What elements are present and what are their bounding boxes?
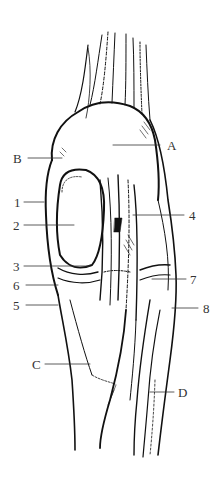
label-c: C xyxy=(32,358,41,371)
label-d: D xyxy=(178,386,187,399)
knee-drawing xyxy=(0,0,219,485)
label-a: A xyxy=(167,139,176,152)
label-6: 6 xyxy=(13,279,20,292)
label-5: 5 xyxy=(13,299,20,312)
label-2: 2 xyxy=(13,219,20,232)
knee-anatomy-figure: A B 1 2 3 6 5 C 4 7 8 D xyxy=(0,0,219,485)
label-7: 7 xyxy=(190,273,197,286)
label-8: 8 xyxy=(203,302,210,315)
label-1: 1 xyxy=(14,196,21,209)
label-3: 3 xyxy=(13,260,20,273)
label-b: B xyxy=(13,152,22,165)
label-4: 4 xyxy=(189,209,196,222)
